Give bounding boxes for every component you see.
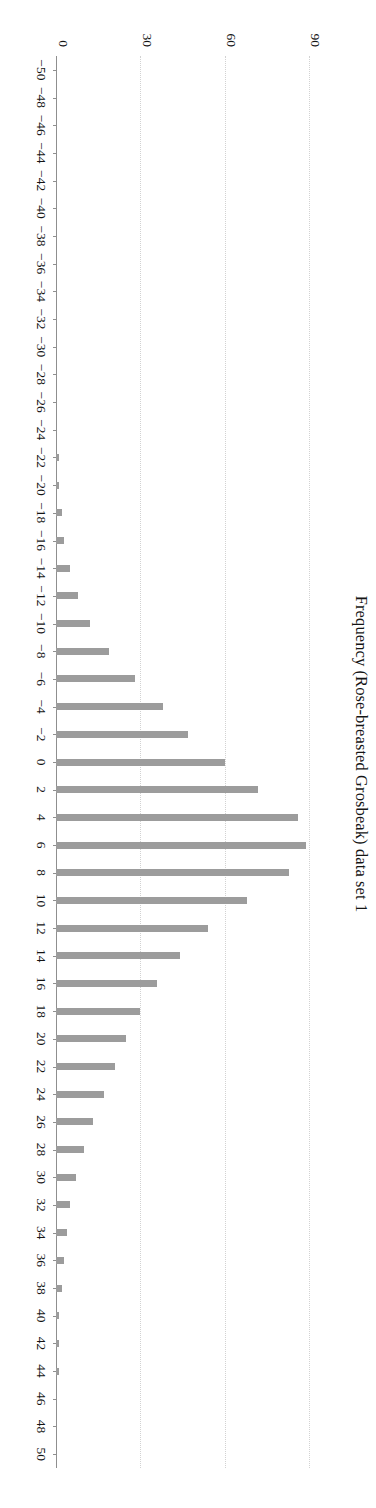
category-tick [53, 485, 56, 486]
bar [56, 537, 64, 544]
bar [56, 620, 90, 627]
category-tick [53, 1122, 56, 1123]
category-tick [53, 1316, 56, 1317]
category-tick [53, 513, 56, 514]
bar [56, 1312, 59, 1319]
bar [56, 1201, 70, 1208]
category-axis-label: −40 [33, 198, 49, 219]
chart-title: Frequency (Rose-breasted Grosbeak) data … [351, 0, 371, 1508]
category-axis-label: 4 [33, 814, 49, 821]
category-axis-label: −50 [33, 59, 49, 80]
bar [56, 759, 225, 766]
bar [56, 1146, 84, 1153]
category-tick [53, 70, 56, 71]
value-axis-label: 30 [139, 34, 155, 48]
bar [56, 482, 59, 489]
category-axis-label: −6 [33, 672, 49, 686]
bar [56, 1174, 76, 1181]
category-tick [53, 1067, 56, 1068]
category-tick [53, 347, 56, 348]
category-tick [53, 1399, 56, 1400]
category-tick [53, 264, 56, 265]
category-tick [53, 1233, 56, 1234]
category-tick [53, 1039, 56, 1040]
category-tick [53, 1150, 56, 1151]
category-tick [53, 956, 56, 957]
category-axis-label: 32 [33, 1198, 49, 1212]
bar [56, 565, 70, 572]
category-tick [53, 153, 56, 154]
category-tick [53, 790, 56, 791]
category-tick [53, 291, 56, 292]
bar [56, 952, 180, 959]
bar [56, 786, 258, 793]
category-tick [53, 319, 56, 320]
category-axis-label: 30 [33, 1171, 49, 1185]
category-axis-label: 12 [33, 921, 49, 935]
bar [56, 925, 208, 932]
bar [56, 703, 163, 710]
category-axis-label: 2 [33, 786, 49, 793]
category-tick [53, 873, 56, 874]
value-axis-label: 0 [55, 40, 71, 47]
category-tick [53, 817, 56, 818]
category-tick [53, 983, 56, 984]
bar [56, 1340, 59, 1347]
category-axis-label: −18 [33, 502, 49, 523]
category-tick [53, 568, 56, 569]
category-tick [53, 762, 56, 763]
category-tick [53, 208, 56, 209]
category-axis-label: −10 [33, 613, 49, 634]
category-axis-label: −34 [33, 281, 49, 302]
category-axis-label: −12 [33, 585, 49, 606]
category-axis-label: 44 [33, 1364, 49, 1378]
bar [56, 454, 59, 461]
category-tick [53, 1177, 56, 1178]
bar [56, 675, 135, 682]
category-axis-label: −20 [33, 475, 49, 496]
bar [56, 731, 188, 738]
category-axis-label: 50 [33, 1447, 49, 1461]
category-tick [53, 430, 56, 431]
bar [56, 509, 62, 516]
gridline-90 [309, 56, 310, 1468]
category-axis-label: −36 [33, 253, 49, 274]
category-axis-label: 20 [33, 1032, 49, 1046]
bar [56, 592, 78, 599]
category-tick [53, 98, 56, 99]
category-tick [53, 679, 56, 680]
category-axis-label: 0 [33, 759, 49, 766]
bar [56, 648, 109, 655]
bar [56, 1285, 62, 1292]
bar [56, 869, 289, 876]
bar [56, 1257, 64, 1264]
category-axis-label: −30 [33, 336, 49, 357]
category-axis-label: −22 [33, 447, 49, 468]
category-axis-label: 36 [33, 1254, 49, 1268]
category-axis-label: −8 [33, 644, 49, 658]
category-axis-label: 48 [33, 1420, 49, 1434]
category-tick [53, 1205, 56, 1206]
category-axis-label: 18 [33, 1004, 49, 1018]
category-axis-label: −38 [33, 225, 49, 246]
bar [56, 1118, 93, 1125]
category-tick [53, 181, 56, 182]
category-tick [53, 1011, 56, 1012]
category-axis-label: 40 [33, 1309, 49, 1323]
category-tick [53, 624, 56, 625]
category-tick [53, 734, 56, 735]
category-tick [53, 1426, 56, 1427]
bar [56, 1091, 104, 1098]
bar [56, 814, 298, 821]
category-tick [53, 928, 56, 929]
category-axis-label: 10 [33, 894, 49, 908]
category-tick [53, 1288, 56, 1289]
bar [56, 1008, 140, 1015]
category-axis-label: 46 [33, 1392, 49, 1406]
category-tick [53, 707, 56, 708]
category-axis-label: −26 [33, 392, 49, 413]
category-axis-label: −48 [33, 87, 49, 108]
category-tick [53, 900, 56, 901]
category-axis-label: −16 [33, 530, 49, 551]
category-axis-label: −42 [33, 170, 49, 191]
